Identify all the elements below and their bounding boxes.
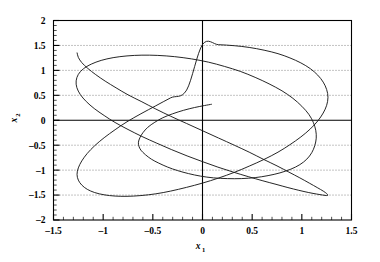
figure-container: –1.5–1–0.500.511.5 21.510.50–0.5–1–1.5–2… — [0, 0, 380, 262]
x-axis-title-letter: x — [195, 241, 201, 251]
x-axis-title-subscript: 1 — [202, 246, 205, 253]
phase-portrait-chart: –1.5–1–0.500.511.5 21.510.50–0.5–1–1.5–2… — [0, 0, 380, 262]
y-tick-label: 0.5 — [34, 91, 46, 101]
y-tick-label: 1 — [41, 66, 46, 76]
y-axis-title-subscript: 2 — [14, 113, 21, 116]
y-tick-label: –0.5 — [28, 141, 46, 151]
y-axis-title-letter: x — [9, 117, 19, 123]
y-tick-label: –2 — [35, 215, 46, 225]
x-tick-label: 0.5 — [246, 226, 258, 236]
x-tick-label: 1.5 — [346, 226, 358, 236]
y-tick-label: 2 — [41, 16, 46, 26]
y-tick-label: 0 — [41, 116, 46, 126]
y-tick-label: –1 — [35, 166, 46, 176]
x-tick-label: –1 — [97, 226, 108, 236]
x-tick-label: –1.5 — [44, 226, 62, 236]
x-tick-label: –0.5 — [144, 226, 162, 236]
y-tick-label: 1.5 — [34, 41, 46, 51]
y-tick-label: –1.5 — [28, 190, 46, 200]
x-tick-label: 0 — [200, 226, 205, 236]
chart-background — [0, 0, 380, 262]
x-tick-label: 1 — [299, 226, 304, 236]
